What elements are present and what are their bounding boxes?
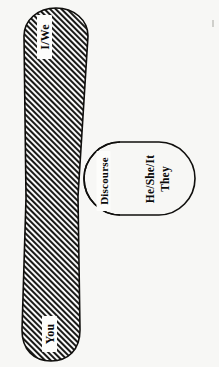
label-they: They [159, 166, 172, 192]
label-discourse-group: Discourse [97, 151, 111, 211]
label-he-she-it: He/She/It [144, 155, 156, 203]
label-you-group: You [42, 316, 57, 352]
label-you: You [43, 324, 57, 345]
figure-canvas: I/We You Discourse He/She/It They [0, 0, 219, 367]
label-i-we-group: I/We [37, 15, 52, 59]
venn-diagram-svg: I/We You Discourse He/She/It They [0, 0, 219, 367]
label-third-person-group: He/She/It They [144, 155, 172, 203]
label-i-we: I/We [38, 24, 52, 50]
scan-speck [212, 20, 214, 27]
label-discourse: Discourse [98, 157, 110, 205]
